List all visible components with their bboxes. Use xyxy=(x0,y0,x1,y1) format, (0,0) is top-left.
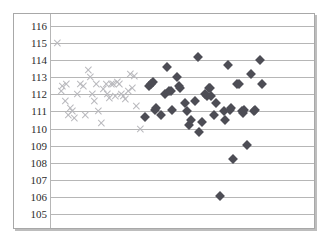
data-point xyxy=(162,62,172,72)
data-point xyxy=(220,115,230,125)
data-point xyxy=(121,95,130,104)
data-point xyxy=(115,80,124,89)
data-point xyxy=(255,55,265,65)
y-tick-label: 114 xyxy=(31,55,47,66)
data-point xyxy=(215,191,225,201)
y-axis-line xyxy=(50,14,51,228)
data-point xyxy=(62,80,71,89)
data-point xyxy=(132,102,141,111)
plot-area xyxy=(50,14,314,228)
y-tick-label: 108 xyxy=(31,157,48,168)
data-point xyxy=(130,71,139,80)
data-point xyxy=(90,97,99,106)
gridline xyxy=(50,26,314,27)
gridline xyxy=(50,129,314,130)
gridline xyxy=(50,180,314,181)
gridline xyxy=(50,43,314,44)
y-tick-label: 115 xyxy=(31,38,47,49)
data-point xyxy=(223,60,233,70)
y-tick-label: 113 xyxy=(31,72,47,83)
y-tick-label: 109 xyxy=(31,140,48,151)
data-point xyxy=(190,96,200,106)
data-point xyxy=(197,117,207,127)
data-point xyxy=(167,105,177,115)
data-point xyxy=(136,124,145,133)
y-tick-label: 111 xyxy=(31,106,47,117)
data-point xyxy=(53,39,62,48)
scatter-chart: 116115114113112111110109108107106105 xyxy=(14,14,314,228)
y-tick-label: 112 xyxy=(31,89,47,100)
chart-frame: 116115114113112111110109108107106105 xyxy=(13,13,315,229)
gridline xyxy=(50,146,314,147)
y-tick-label: 116 xyxy=(31,21,47,32)
data-point xyxy=(79,81,88,90)
data-point xyxy=(242,140,252,150)
gridline xyxy=(50,214,314,215)
data-point xyxy=(73,90,82,99)
data-point xyxy=(140,112,150,122)
y-tick-label: 106 xyxy=(31,191,48,202)
data-point xyxy=(81,110,90,119)
data-point xyxy=(70,114,79,123)
y-tick-label: 105 xyxy=(31,209,48,220)
gridline xyxy=(50,197,314,198)
data-point xyxy=(257,79,267,89)
y-tick-label: 110 xyxy=(31,123,47,134)
gridline xyxy=(50,60,314,61)
data-point xyxy=(128,83,137,92)
data-point xyxy=(97,119,106,128)
y-tick-label: 107 xyxy=(31,174,48,185)
gridline xyxy=(50,163,314,164)
data-point xyxy=(211,98,221,108)
y-axis: 116115114113112111110109108107106105 xyxy=(14,14,50,228)
data-point xyxy=(94,107,103,116)
